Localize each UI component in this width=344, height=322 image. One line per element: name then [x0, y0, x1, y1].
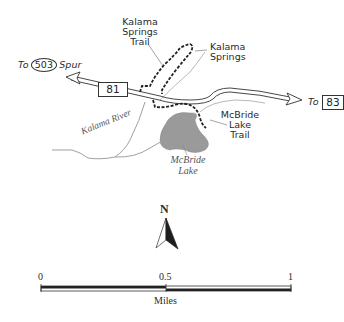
north-label: N: [160, 203, 169, 216]
mcbride-lake-trail-label: McBride Lake Trail: [220, 110, 260, 140]
label-line: McBride: [168, 155, 208, 166]
route-81-shield: 81: [98, 82, 128, 97]
kalama-springs-trail-label: Kalama Springs Trail: [118, 17, 162, 47]
leader-kalama-springs: [195, 50, 207, 51]
route-83-shield: 83: [322, 95, 344, 110]
creek-to-springs: [160, 52, 205, 100]
label-line: Springs: [210, 52, 246, 62]
west-arrowhead: [66, 72, 80, 84]
scale-bar-graphic: [41, 284, 291, 292]
scale-tick-0: 0: [38, 272, 43, 283]
east-arrowhead: [286, 93, 302, 105]
scale-unit: Miles: [154, 296, 177, 307]
west-suffix: Spur: [59, 59, 81, 70]
mcbride-lake-label: McBride Lake: [168, 155, 208, 176]
river-branch: [115, 140, 165, 157]
scale-tick-1: 1: [288, 272, 293, 283]
kalama-springs-trail-path: [140, 44, 192, 94]
scale-tick-0-5: 0.5: [159, 272, 172, 283]
east-prefix: To: [308, 97, 318, 107]
north-arrow-graphic: [156, 218, 178, 249]
west-route-label: To 503 Spur: [18, 58, 81, 72]
label-line: Trail: [220, 130, 260, 140]
mcbride-lake-shape: [160, 113, 209, 153]
leader-kalama-springs-trail: [148, 44, 163, 66]
kalama-springs-label: Kalama Springs: [210, 42, 246, 62]
route-503-shield: 503: [31, 58, 57, 72]
west-prefix: To: [18, 59, 28, 70]
label-line: Lake: [168, 166, 208, 177]
label-line: Trail: [118, 37, 162, 47]
